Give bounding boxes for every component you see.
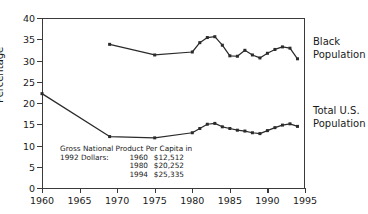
x-tick-label: 1985: [218, 196, 242, 206]
x-tick: [230, 188, 231, 193]
data-point-marker: [213, 122, 216, 125]
x-tick-label: 1975: [143, 196, 167, 206]
data-point-marker: [41, 92, 44, 95]
data-point-marker: [198, 127, 201, 130]
y-tick-label: 40: [23, 14, 35, 24]
data-point-marker: [273, 126, 276, 129]
data-point-marker: [206, 123, 209, 126]
data-point-marker: [251, 53, 254, 56]
data-point-marker: [273, 48, 276, 51]
data-point-marker: [243, 49, 246, 52]
series-label-total-us: Total U.S. Population: [313, 105, 366, 130]
x-tick: [305, 188, 306, 193]
data-point-marker: [108, 43, 111, 46]
data-point-marker: [258, 132, 261, 135]
annotation-year: 1994: [124, 171, 148, 180]
series-label-total-line2: Population: [313, 118, 366, 131]
x-tick: [155, 188, 156, 193]
y-tick-label: 10: [23, 141, 35, 151]
series-label-black: Black Population: [313, 36, 366, 61]
chart-figure: Percentage 0510152025303540 196019651970…: [0, 0, 368, 214]
y-tick-label: 0: [29, 184, 35, 194]
x-tick: [42, 188, 43, 193]
data-point-marker: [251, 131, 254, 134]
data-point-marker: [191, 131, 194, 134]
data-point-marker: [266, 52, 269, 55]
data-point-marker: [288, 47, 291, 50]
x-tick-label: 1960: [30, 196, 54, 206]
data-point-marker: [213, 35, 216, 38]
gnp-annotation: Gross National Product Per Capita in 199…: [60, 145, 192, 179]
x-tick-label: 1970: [105, 196, 129, 206]
data-point-marker: [243, 130, 246, 133]
data-point-marker: [281, 45, 284, 48]
data-point-marker: [228, 127, 231, 130]
y-tick-label: 35: [23, 35, 35, 45]
series-label-black-line1: Black: [313, 36, 366, 49]
data-point-marker: [153, 53, 156, 56]
series-line: [110, 37, 298, 59]
y-tick-label: 20: [23, 99, 35, 109]
y-tick-label: 5: [29, 162, 35, 172]
data-point-marker: [266, 129, 269, 132]
data-point-marker: [153, 136, 156, 139]
data-point-marker: [221, 125, 224, 128]
data-point-marker: [296, 125, 299, 128]
data-point-marker: [206, 36, 209, 39]
x-tick-label: 1965: [67, 196, 91, 206]
data-point-marker: [236, 55, 239, 58]
data-point-marker: [296, 57, 299, 60]
data-point-marker: [228, 54, 231, 57]
data-point-marker: [108, 135, 111, 138]
y-axis-title: Percentage: [0, 47, 5, 103]
annotation-lead: 1992 Dollars:: [60, 154, 124, 163]
series-line: [42, 94, 297, 138]
data-point-marker: [281, 124, 284, 127]
series-label-black-line2: Population: [313, 49, 366, 62]
y-tick-label: 25: [23, 77, 35, 87]
x-tick: [80, 188, 81, 193]
annotation-amount: $25,335: [148, 171, 184, 180]
annotation-rows: 1992 Dollars:1960$12,5121980$20,2521994$…: [60, 154, 192, 180]
x-tick: [192, 188, 193, 193]
data-point-marker: [221, 44, 224, 47]
x-tick: [117, 188, 118, 193]
annotation-row: 1994$25,335: [60, 171, 192, 180]
data-point-marker: [258, 56, 261, 59]
x-tick: [267, 188, 268, 193]
data-point-marker: [288, 122, 291, 125]
x-tick-label: 1995: [293, 196, 317, 206]
x-tick-label: 1990: [255, 196, 279, 206]
data-point-marker: [191, 51, 194, 54]
series-label-total-line1: Total U.S.: [313, 105, 366, 118]
y-tick-label: 15: [23, 120, 35, 130]
x-axis-line: [42, 188, 305, 189]
x-tick-label: 1980: [180, 196, 204, 206]
y-tick-label: 30: [23, 56, 35, 66]
data-point-marker: [236, 129, 239, 132]
data-point-marker: [198, 41, 201, 44]
